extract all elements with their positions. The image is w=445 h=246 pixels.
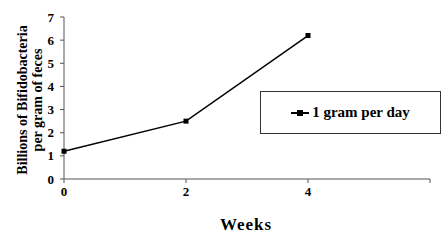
y-ticks: 01234567 bbox=[48, 10, 65, 187]
legend: 1 gram per day bbox=[260, 91, 441, 134]
y-axis-title-line2: per gram of feces bbox=[30, 48, 45, 151]
data-point-marker bbox=[184, 119, 189, 124]
x-tick-label: 2 bbox=[183, 184, 190, 199]
legend-line-marker-icon bbox=[291, 108, 309, 117]
y-tick-label: 1 bbox=[48, 148, 55, 163]
x-tick-label: 0 bbox=[61, 184, 68, 199]
y-tick-label: 7 bbox=[48, 10, 55, 25]
x-axis-title: Weeks bbox=[220, 215, 272, 234]
y-tick-label: 4 bbox=[48, 79, 55, 94]
x-tick-label: 4 bbox=[305, 184, 312, 199]
y-tick-label: 3 bbox=[48, 102, 55, 117]
y-tick-label: 0 bbox=[48, 172, 55, 187]
data-point-marker bbox=[62, 149, 67, 154]
x-ticks: 024 bbox=[61, 179, 430, 199]
y-tick-label: 5 bbox=[48, 56, 55, 71]
legend-label: 1 gram per day bbox=[312, 104, 410, 121]
data-point-marker bbox=[306, 33, 311, 38]
y-tick-label: 6 bbox=[48, 33, 55, 48]
y-axis-title-line1: Billions of Bifidobacteria bbox=[15, 25, 30, 174]
y-tick-label: 2 bbox=[48, 125, 55, 140]
